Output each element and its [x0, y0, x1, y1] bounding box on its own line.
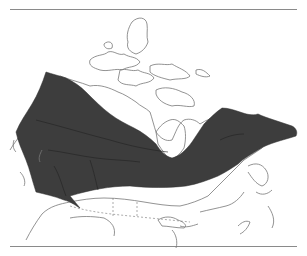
maritime-coast: [248, 164, 274, 228]
international-border: [70, 206, 190, 222]
canada-range-map: [0, 0, 307, 256]
arctic-islands: [90, 18, 210, 107]
great-lakes: [70, 192, 250, 248]
